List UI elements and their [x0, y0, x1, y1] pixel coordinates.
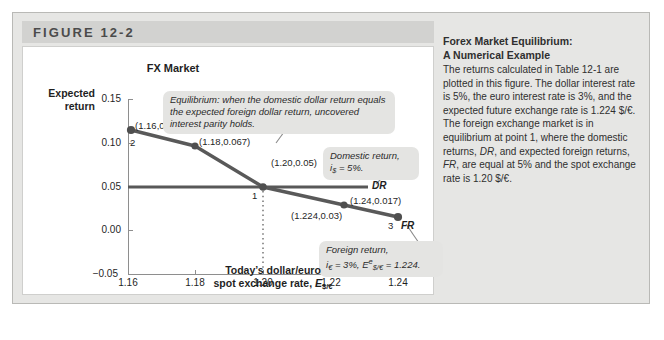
chart-panel: FX Market Expectedreturn 0.15 0.10 0.05 …: [22, 46, 434, 295]
point-label-1-224: (1.224,0.03): [291, 210, 342, 221]
domestic-callout-line2: i$ = 5%.: [330, 162, 364, 173]
plot-area: FX Market Expectedreturn 0.15 0.10 0.05 …: [23, 47, 435, 296]
foreign-callout-line1: Foreign return,: [326, 244, 388, 255]
caption-body: The returns calculated in Table 12-1 are…: [443, 63, 643, 185]
data-point-marker: [259, 183, 267, 191]
point-label-1-18: (1.18,0.067): [199, 136, 250, 147]
domestic-callout-line1: Domestic return,: [330, 150, 400, 161]
figure-header-band: FIGURE 12-2: [22, 21, 434, 43]
point-number-2: 2: [130, 137, 135, 148]
domestic-return-callout: Domestic return, i$ = 5%.: [323, 147, 419, 180]
point-number-1: 1: [252, 190, 257, 201]
caption-title: Forex Market Equilibrium: A Numerical Ex…: [443, 35, 643, 62]
point-label-1-20: (1.20,0.05): [271, 157, 317, 168]
x-axis-label-line2: spot exchange rate, E$/€: [214, 277, 333, 289]
point-label-1-24: (1.24,0.017): [350, 195, 401, 206]
data-point-marker: [191, 142, 198, 149]
dr-line-tag: DR: [372, 180, 386, 191]
data-point-marker: [127, 126, 135, 134]
x-axis-label-line1: Today’s dollar/euro: [225, 264, 321, 276]
figure-caption: Forex Market Equilibrium: A Numerical Ex…: [443, 21, 643, 296]
equilibrium-callout: Equilibrium: when the domestic dollar re…: [163, 91, 395, 134]
fr-line-tag: FR: [401, 220, 414, 231]
point-number-3: 3: [388, 220, 393, 231]
figure-number-label: FIGURE 12-2: [33, 25, 135, 40]
data-point-marker: [340, 201, 347, 208]
x-axis-label: Today’s dollar/euro spot exchange rate, …: [143, 264, 403, 293]
figure-container: FIGURE 12-2 FX Market Expectedreturn 0.1…: [12, 12, 650, 304]
